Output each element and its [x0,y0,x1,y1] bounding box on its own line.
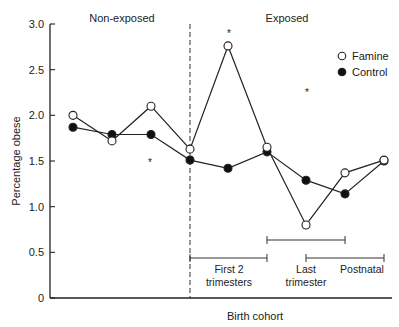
y-tick-label: 0.5 [29,246,44,258]
region-label-exposed: Exposed [266,12,309,24]
legend-label-famine: Famine [352,50,389,62]
data-point-famine [224,42,232,50]
data-point-control [147,131,155,139]
y-tick-label: 2.5 [29,64,44,76]
y-axis-label: Percentage obese [10,116,22,205]
legend-filled-circle-icon [338,68,346,76]
data-point-famine [380,156,388,164]
data-point-control [302,176,310,184]
y-tick-label: 1.0 [29,201,44,213]
exposure-period-label: First 2trimesters [206,263,252,288]
y-tick-label: 1.5 [29,155,44,167]
region-label-non-exposed: Non-exposed [89,12,154,24]
exposure-period-label: Postnatal [340,263,384,275]
data-point-famine [69,111,77,119]
exposure-period-label: Lasttrimester [286,263,327,288]
data-point-famine [263,143,271,151]
data-point-control [186,156,194,164]
exposure-period-bracket [306,254,384,262]
y-tick-label: 0 [38,292,44,304]
data-point-famine [341,169,349,177]
legend-label-control: Control [352,66,387,78]
data-point-famine [108,137,116,145]
y-tick-label: 2.0 [29,109,44,121]
line-chart: 00.51.01.52.02.53.0Percentage obeseBirth… [0,0,399,327]
significance-asterisk: * [305,87,309,98]
data-point-control [69,123,77,131]
x-axis-label: Birth cohort [227,310,283,322]
data-point-famine [147,102,155,110]
legend: FamineControl [338,50,388,78]
significance-asterisk: * [227,28,231,39]
y-tick-label: 3.0 [29,18,44,30]
significance-asterisk: * [148,157,152,168]
exposure-period-bracket [190,254,267,262]
data-point-famine [302,221,310,229]
legend-open-circle-icon [338,52,346,60]
data-point-control [341,190,349,198]
data-point-famine [186,145,194,153]
axes: 00.51.01.52.02.53.0Percentage obeseBirth… [10,18,392,322]
exposure-period-bracket [267,236,345,244]
data-point-control [224,164,232,172]
series-line-famine [73,46,384,225]
